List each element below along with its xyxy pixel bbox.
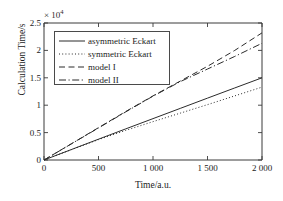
chart-figure: × 104 Calculation Time/s 00.511.522.5 05… <box>0 0 283 201</box>
series-line-0 <box>44 78 262 160</box>
legend-entry: model I <box>58 60 168 73</box>
legend-label: asymmetric Eckart <box>86 36 156 46</box>
x-axis-tick-label: 500 <box>69 163 129 173</box>
x-axis-tick-label: 0 <box>14 163 74 173</box>
legend-line-sample <box>58 74 86 85</box>
legend-entry: model II <box>58 73 168 86</box>
legend-line-sample <box>58 35 86 46</box>
legend-entry: symmetric Eckart <box>58 47 168 60</box>
legend-label: model I <box>86 62 116 72</box>
legend-line-sample <box>58 48 86 59</box>
x-axis-title: Time/a.u. <box>44 180 262 191</box>
x-axis-tick-label: 2 000 <box>232 163 283 173</box>
legend-label: model II <box>86 75 119 85</box>
x-axis-tick-label: 1 000 <box>123 163 183 173</box>
legend-entry: asymmetric Eckart <box>58 34 168 47</box>
series-line-1 <box>44 87 262 160</box>
legend-line-sample <box>58 61 86 72</box>
chart-legend: asymmetric Eckartsymmetric Eckartmodel I… <box>54 31 170 85</box>
x-axis-tick-label: 1 500 <box>178 163 238 173</box>
legend-label: symmetric Eckart <box>86 49 152 59</box>
